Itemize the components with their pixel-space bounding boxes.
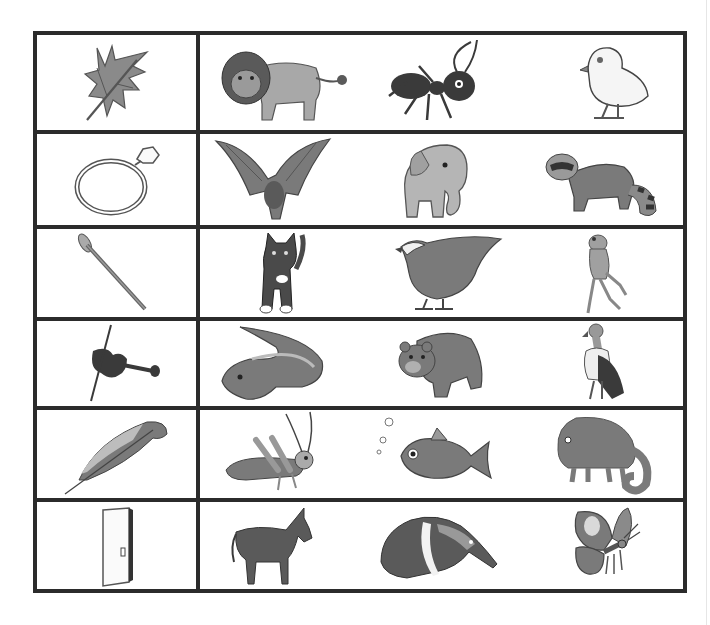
nail-icon	[67, 229, 167, 317]
animal-cell-lion[interactable]: lion	[200, 35, 361, 130]
page-edge	[706, 0, 707, 625]
animal-cell-vulture[interactable]: vulture	[522, 321, 683, 406]
object-cell-nail[interactable]: nail	[37, 229, 196, 317]
animal-cell-chameleon[interactable]: chameleon	[522, 410, 683, 498]
animal-cell-donkey[interactable]: donkey	[200, 502, 361, 589]
anteater-icon	[367, 502, 517, 590]
vulture-icon	[528, 321, 678, 407]
eel-icon	[206, 321, 356, 407]
animal-cell-ant[interactable]: ant	[361, 35, 522, 130]
elephant-icon	[367, 135, 517, 225]
animal-cell-cat[interactable]: cat	[200, 229, 361, 317]
animal-cell-grasshopper[interactable]: grasshopper	[200, 410, 361, 498]
animal-cell-butterfly[interactable]: butterfly	[522, 502, 683, 589]
lion-icon	[206, 38, 356, 128]
object-cell-ring[interactable]: ring	[37, 134, 196, 225]
animal-cell-anteater[interactable]: anteater	[361, 502, 522, 589]
cat-icon	[206, 229, 356, 317]
animal-cell-eel[interactable]: eel	[200, 321, 361, 406]
frog-icon	[528, 229, 678, 317]
worksheet-row-2: ring bat elephant ra	[37, 130, 683, 225]
bird-icon	[367, 229, 517, 317]
animal-cell-bird[interactable]: bird	[361, 229, 522, 317]
animal-cell-chick[interactable]: chick	[522, 35, 683, 130]
chick-icon	[528, 38, 678, 128]
grasshopper-icon	[206, 410, 356, 498]
animal-cell-fish[interactable]: fish	[361, 410, 522, 498]
object-cell-violin[interactable]: violin	[37, 321, 196, 406]
picture-matching-worksheet: leaf lion ant	[33, 31, 687, 593]
butterfly-icon	[528, 502, 678, 590]
ant-icon	[367, 38, 517, 128]
object-cell-feather[interactable]: feather	[37, 410, 196, 498]
fish-icon	[367, 410, 517, 498]
object-cell-leaf[interactable]: leaf	[37, 35, 196, 130]
worksheet-row-6: door donkey anteater butterfl	[37, 498, 683, 589]
raccoon-icon	[528, 135, 678, 225]
worksheet-row-5: feather grasshopper fish	[37, 406, 683, 498]
door-icon	[67, 502, 167, 590]
chameleon-icon	[528, 410, 678, 498]
object-cell-door[interactable]: door	[37, 502, 196, 589]
bear-icon	[367, 321, 517, 407]
animal-cell-elephant[interactable]: elephant	[361, 134, 522, 225]
animal-cell-bear[interactable]: bear	[361, 321, 522, 406]
animal-cell-bat[interactable]: bat	[200, 134, 361, 225]
animal-cell-raccoon[interactable]: raccoon	[522, 134, 683, 225]
worksheet-row-3: nail cat bird	[37, 225, 683, 317]
violin-icon	[67, 321, 167, 407]
leaf-icon	[67, 38, 167, 128]
bat-icon	[206, 135, 356, 225]
worksheet-row-1: leaf lion ant	[37, 35, 683, 130]
donkey-icon	[206, 502, 356, 590]
animal-cell-frog[interactable]: frog	[522, 229, 683, 317]
feather-icon	[57, 410, 177, 498]
worksheet-row-4: violin eel bear	[37, 317, 683, 406]
ring-icon	[67, 135, 167, 225]
